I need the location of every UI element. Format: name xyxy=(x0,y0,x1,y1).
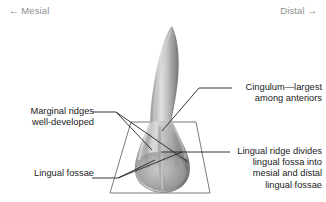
annotation-line: well-developed xyxy=(6,117,94,128)
dental-diagram-page: ← Mesial Distal → xyxy=(0,0,326,202)
annotation-lingual-fossae: Lingual fossae xyxy=(6,168,94,179)
annotation-line: lingual fossae xyxy=(232,180,322,191)
annotation-lingual-ridge: Lingual ridge divides lingual fossa into… xyxy=(232,146,322,191)
annotation-line: Cingulum—largest xyxy=(236,82,322,93)
annotation-line: Lingual ridge divides xyxy=(232,146,322,157)
tooth-root xyxy=(150,26,179,126)
annotation-marginal-ridges: Marginal ridges well-developed xyxy=(6,106,94,128)
annotation-line: Marginal ridges xyxy=(6,106,94,117)
annotation-cingulum: Cingulum—largest among anteriors xyxy=(236,82,322,104)
annotation-line: mesial and distal xyxy=(232,168,322,179)
annotation-line: Lingual fossae xyxy=(6,168,94,179)
annotation-line: lingual fossa into xyxy=(232,157,322,168)
annotation-line: among anteriors xyxy=(236,93,322,104)
